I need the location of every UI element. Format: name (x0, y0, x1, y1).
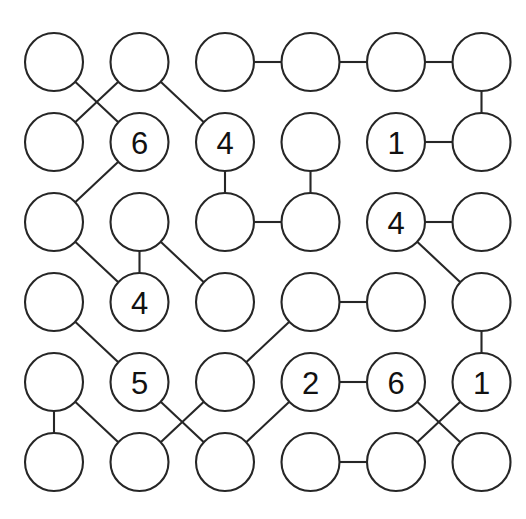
node-label-r4c4: 6 (387, 366, 404, 401)
node-r1c5[interactable] (453, 113, 511, 171)
node-circle-r2c0[interactable] (25, 193, 83, 251)
node-r4c1[interactable]: 5 (111, 353, 169, 411)
edge-r4c0-r5c1[interactable] (75, 402, 118, 442)
node-r4c2[interactable] (196, 353, 254, 411)
node-circle-r5c5[interactable] (453, 433, 511, 491)
edge-r3c3-r4c2[interactable] (246, 322, 289, 362)
node-r2c0[interactable] (25, 193, 83, 251)
node-r0c4[interactable] (367, 33, 425, 91)
node-circle-r3c0[interactable] (25, 273, 83, 331)
node-label-r1c2: 4 (216, 126, 233, 161)
node-circle-r5c2[interactable] (196, 433, 254, 491)
node-r0c3[interactable] (282, 33, 340, 91)
node-circle-r0c3[interactable] (282, 33, 340, 91)
node-r1c0[interactable] (25, 113, 83, 171)
node-circle-r2c1[interactable] (111, 193, 169, 251)
node-r2c5[interactable] (453, 193, 511, 251)
node-r2c1[interactable] (111, 193, 169, 251)
node-r3c3[interactable] (282, 273, 340, 331)
node-r1c1[interactable]: 6 (111, 113, 169, 171)
node-label-r4c1: 5 (131, 366, 148, 401)
node-label-r4c3: 2 (302, 366, 319, 401)
node-r3c2[interactable] (196, 273, 254, 331)
puzzle-canvas: 641445261 (0, 0, 526, 519)
puzzle-graph: 641445261 (0, 0, 526, 519)
node-label-r2c4: 4 (387, 206, 404, 241)
node-r3c0[interactable] (25, 273, 83, 331)
node-label-r1c4: 1 (387, 126, 404, 161)
node-r5c3[interactable] (282, 433, 340, 491)
node-label-r4c5: 1 (473, 366, 490, 401)
node-r4c5[interactable]: 1 (453, 353, 511, 411)
node-circle-r3c2[interactable] (196, 273, 254, 331)
node-circle-r0c4[interactable] (367, 33, 425, 91)
node-circle-r1c3[interactable] (282, 113, 340, 171)
node-circle-r0c2[interactable] (196, 33, 254, 91)
node-circle-r2c5[interactable] (453, 193, 511, 251)
node-r3c4[interactable] (367, 273, 425, 331)
node-circle-r2c3[interactable] (282, 193, 340, 251)
node-circle-r0c1[interactable] (111, 33, 169, 91)
node-r5c4[interactable] (367, 433, 425, 491)
node-circle-r4c2[interactable] (196, 353, 254, 411)
node-r5c0[interactable] (25, 433, 83, 491)
node-r4c3[interactable]: 2 (282, 353, 340, 411)
node-circle-r0c5[interactable] (453, 33, 511, 91)
node-r0c0[interactable] (25, 33, 83, 91)
node-circle-r5c1[interactable] (111, 433, 169, 491)
node-r2c2[interactable] (196, 193, 254, 251)
node-circle-r3c5[interactable] (453, 273, 511, 331)
node-r4c0[interactable] (25, 353, 83, 411)
node-r5c2[interactable] (196, 433, 254, 491)
node-circle-r5c4[interactable] (367, 433, 425, 491)
node-r2c4[interactable]: 4 (367, 193, 425, 251)
node-label-r3c1: 4 (131, 286, 148, 321)
node-label-r1c1: 6 (131, 126, 148, 161)
node-circle-r5c3[interactable] (282, 433, 340, 491)
node-circle-r5c0[interactable] (25, 433, 83, 491)
node-r5c1[interactable] (111, 433, 169, 491)
node-r3c5[interactable] (453, 273, 511, 331)
node-r3c1[interactable]: 4 (111, 273, 169, 331)
node-circle-r4c0[interactable] (25, 353, 83, 411)
node-circle-r1c5[interactable] (453, 113, 511, 171)
edge-r2c4-r3c5[interactable] (417, 242, 460, 282)
node-r5c5[interactable] (453, 433, 511, 491)
node-r2c3[interactable] (282, 193, 340, 251)
node-r0c5[interactable] (453, 33, 511, 91)
node-circle-r3c3[interactable] (282, 273, 340, 331)
node-circle-r0c0[interactable] (25, 33, 83, 91)
node-circle-r3c4[interactable] (367, 273, 425, 331)
node-r0c2[interactable] (196, 33, 254, 91)
edge-r2c0-r3c1[interactable] (75, 242, 118, 282)
node-circle-r1c0[interactable] (25, 113, 83, 171)
node-r4c4[interactable]: 6 (367, 353, 425, 411)
edge-r0c1-r1c2[interactable] (161, 82, 204, 122)
edge-r4c3-r5c2[interactable] (246, 402, 289, 442)
node-circle-r2c2[interactable] (196, 193, 254, 251)
node-r0c1[interactable] (111, 33, 169, 91)
edge-r2c1-r3c2[interactable] (161, 242, 204, 282)
node-r1c4[interactable]: 1 (367, 113, 425, 171)
edge-r3c0-r4c1[interactable] (75, 322, 118, 362)
edge-r1c1-r2c0[interactable] (75, 162, 118, 202)
node-r1c2[interactable]: 4 (196, 113, 254, 171)
node-r1c3[interactable] (282, 113, 340, 171)
